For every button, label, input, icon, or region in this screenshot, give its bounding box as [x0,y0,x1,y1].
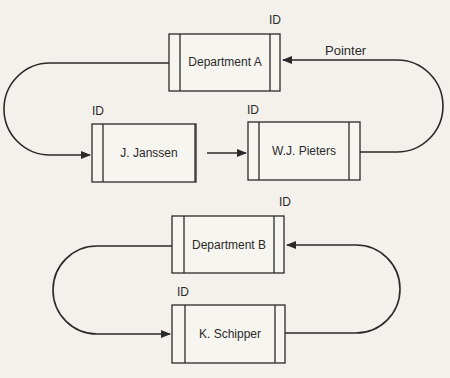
node-j-janssen-label: J. Janssen [103,146,195,160]
edge-deptb-schipper [53,246,172,334]
id-label-wj-pieters: ID [247,103,259,117]
id-label-department-b: ID [279,195,291,209]
node-wj-pieters-label: W.J. Pieters [259,144,349,158]
edge-schipper-deptb [285,245,400,333]
node-k-schipper-label: K. Schipper [185,327,275,341]
node-department-b-label: Department B [184,238,274,252]
pointer-label: Pointer [325,43,366,58]
id-label-k-schipper: ID [177,285,189,299]
id-label-j-janssen: ID [92,104,104,118]
id-label-department-a: ID [269,13,281,27]
node-department-a-label: Department A [180,55,270,69]
